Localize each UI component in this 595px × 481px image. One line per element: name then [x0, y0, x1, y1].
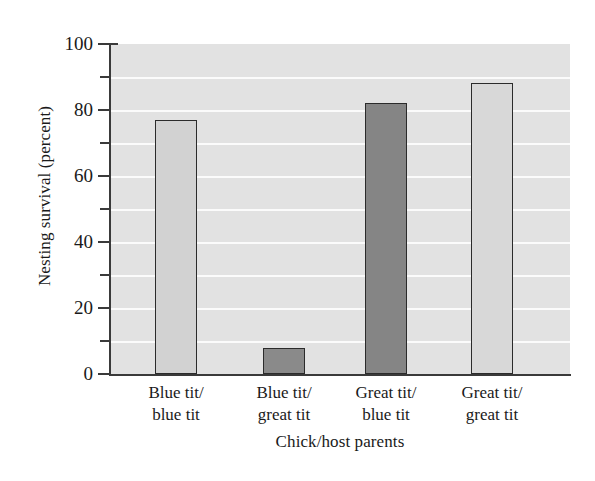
y-tick-minor [100, 340, 110, 342]
y-tick-major [98, 373, 110, 375]
x-tick-label-2-line1: Great tit/ [356, 383, 417, 402]
y-tick-label-60: 60 [23, 166, 93, 185]
bar-great-tit-blue-tit [365, 103, 407, 374]
x-tick-label-1-line1: Blue tit/ [256, 383, 311, 402]
x-axis-title: Chick/host parents [110, 432, 570, 452]
bar-blue-tit-great-tit [263, 348, 305, 374]
y-tick-minor [100, 142, 110, 144]
y-tick-major [98, 109, 110, 111]
y-tick-minor [100, 274, 110, 276]
y-tick-major [98, 307, 110, 309]
y-tick-minor [100, 208, 110, 210]
y-tick-major [98, 241, 110, 243]
y-tick-label-40: 40 [23, 232, 93, 251]
x-tick-label-3-line2: great tit [422, 404, 562, 426]
y-tick-major [98, 175, 110, 177]
y-tick-minor [100, 76, 110, 78]
y-tick-label-100: 100 [23, 34, 93, 53]
y-tick-major [98, 43, 110, 45]
bar-chart-figure: Nesting survival (percent) 100 80 60 40 … [0, 0, 595, 481]
y-tick-label-0: 0 [23, 364, 93, 383]
gridline [110, 77, 570, 79]
bar-great-tit-great-tit [471, 83, 513, 374]
x-tick-label-3-line1: Great tit/ [462, 383, 523, 402]
x-tick-label-3: Great tit/ great tit [422, 382, 562, 426]
bar-blue-tit-blue-tit [155, 120, 197, 374]
x-tick-label-0-line1: Blue tit/ [148, 383, 203, 402]
y-axis-top-cap [109, 43, 118, 45]
y-tick-label-20: 20 [23, 298, 93, 317]
x-axis-line [109, 374, 571, 376]
y-tick-label-80: 80 [23, 100, 93, 119]
